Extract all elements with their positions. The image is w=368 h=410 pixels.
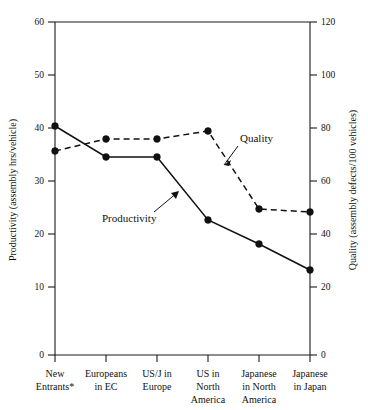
quality-series-markers (52, 128, 314, 216)
category-label-line: North (196, 381, 219, 392)
right-ticklabel-80: 80 (321, 123, 331, 133)
right-ticklabel-120: 120 (321, 17, 336, 27)
right-ticklabel-60: 60 (321, 176, 331, 186)
quality-data-point (52, 148, 59, 155)
quality-data-point (103, 136, 110, 143)
right-ticklabel-40: 40 (321, 229, 331, 239)
productivity-series-line (55, 126, 310, 270)
category-label-japanese-in-japan: Japanese in Japan (292, 368, 328, 392)
right-axis-tick-labels: 120 100 80 60 40 20 0 (321, 17, 336, 360)
productivity-series-markers (52, 123, 314, 274)
productivity-data-point (154, 154, 161, 161)
left-ticklabel-0: 0 (39, 350, 44, 360)
left-axis-ticks (48, 22, 55, 355)
right-axis-ticks (310, 22, 317, 355)
left-ticklabel-10: 10 (35, 282, 45, 292)
left-axis-title: Productivity (assembly hrs/vehicle) (7, 119, 19, 261)
category-label-line: Japanese (241, 368, 277, 379)
category-label-line: Europeans (85, 368, 127, 379)
productivity-quality-line-chart: 60 50 40 30 20 10 0 120 100 80 60 40 20 … (0, 0, 368, 410)
category-label-line: Japanese (292, 368, 328, 379)
quality-leader-line (224, 146, 238, 165)
category-label-line: US in (196, 368, 219, 379)
category-label-line: New (46, 368, 66, 379)
category-label-line: Europe (143, 381, 172, 392)
category-label-line: America (191, 394, 226, 405)
category-label-usj-in-europe: US/J in Europe (142, 368, 172, 392)
right-ticklabel-20: 20 (321, 282, 331, 292)
right-axis-title: Quality (assembly defects/100 vehicles) (347, 110, 359, 270)
productivity-annotation-label: Productivity (102, 212, 157, 224)
left-ticklabel-20: 20 (35, 229, 45, 239)
right-ticklabel-0: 0 (321, 350, 326, 360)
category-label-line: America (242, 394, 277, 405)
category-label-line: in North (242, 381, 276, 392)
quality-data-point (307, 209, 314, 216)
category-label-new-entrants: New Entrants* (36, 368, 74, 392)
category-label-line: in Japan (293, 381, 326, 392)
category-label-line: Entrants* (36, 381, 74, 392)
category-label-line: in EC (94, 381, 117, 392)
quality-annotation: Quality (224, 132, 273, 166)
quality-annotation-label: Quality (240, 132, 273, 144)
quality-data-point (205, 128, 212, 135)
category-label-europeans-in-ec: Europeans in EC (85, 368, 127, 392)
category-label-us-in-north-america: US in North America (191, 368, 226, 405)
productivity-data-point (52, 123, 59, 130)
productivity-data-point (205, 217, 212, 224)
category-label-line: US/J in (142, 368, 172, 379)
productivity-data-point (307, 267, 314, 274)
x-axis-category-labels: New Entrants* Europeans in EC US/J in Eu… (36, 368, 328, 405)
left-ticklabel-50: 50 (35, 70, 45, 80)
productivity-data-point (256, 241, 263, 248)
left-ticklabel-30: 30 (35, 176, 45, 186)
chart-container: 60 50 40 30 20 10 0 120 100 80 60 40 20 … (0, 0, 368, 410)
right-ticklabel-100: 100 (321, 70, 336, 80)
category-label-japanese-in-north-america: Japanese in North America (241, 368, 277, 405)
quality-data-point (154, 136, 161, 143)
left-ticklabel-60: 60 (35, 17, 45, 27)
left-axis-tick-labels: 60 50 40 30 20 10 0 (35, 17, 45, 360)
productivity-annotation: Productivity (102, 191, 179, 224)
left-ticklabel-40: 40 (35, 123, 45, 133)
quality-data-point (256, 206, 263, 213)
productivity-leader-arrowhead (171, 191, 179, 199)
x-axis-ticks (55, 355, 310, 362)
productivity-data-point (103, 154, 110, 161)
